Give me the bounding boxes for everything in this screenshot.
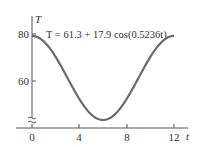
- data-line: [32, 36, 174, 120]
- x-tick-label: 8: [124, 131, 130, 143]
- x-axis-label: t: [186, 130, 190, 142]
- chart: 80 60 0 4 8 12 T t T = 61.3 + 17.9 cos(0…: [0, 0, 198, 147]
- axis-break-icon: [28, 121, 36, 123]
- y-axis-label: T: [35, 13, 42, 25]
- x-tick-label: 4: [76, 131, 82, 143]
- equation-label: T = 61.3 + 17.9 cos(0.5236t): [46, 29, 167, 41]
- y-tick-label: 80: [18, 28, 30, 40]
- x-tick-label: 12: [169, 131, 180, 143]
- y-tick-label: 60: [18, 75, 30, 87]
- x-tick-label: 0: [29, 131, 35, 143]
